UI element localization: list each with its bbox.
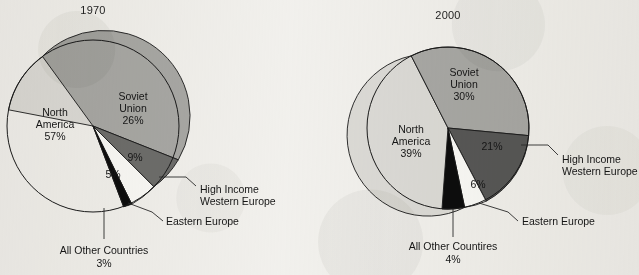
right-label-soviet-union-line2: Union bbox=[450, 78, 478, 90]
right-value-all-other-countries: 4% bbox=[445, 253, 460, 265]
left-callout-high-income-line2: Western Europe bbox=[200, 195, 276, 207]
left-leader-eastern-europe bbox=[128, 203, 163, 221]
right-callout-high-income-line2: Western Europe bbox=[562, 165, 638, 177]
left-leader-high-income-western-europe bbox=[159, 177, 196, 186]
left-label-soviet-union-line1: Soviet bbox=[118, 90, 147, 102]
right-value-high-income-western-europe: 21% bbox=[481, 140, 502, 152]
right-value-north-america: 39% bbox=[400, 147, 421, 159]
right-label-soviet-union-line1: Soviet bbox=[449, 66, 478, 78]
left-label-soviet-union-line2: Union bbox=[119, 102, 147, 114]
right-label-north-america-line2: America bbox=[392, 135, 431, 147]
left-callout-high-income-line1: High Income bbox=[200, 183, 259, 195]
left-value-eastern-europe: 5% bbox=[105, 168, 120, 180]
left-value-high-income-western-europe: 9% bbox=[127, 151, 142, 163]
left-value-soviet-union: 26% bbox=[122, 114, 143, 126]
right-value-eastern-europe: 6% bbox=[470, 178, 485, 190]
left-value-all-other-countries: 3% bbox=[96, 257, 111, 269]
left-value-north-america: 57% bbox=[44, 130, 65, 142]
right-callout-eastern-europe: Eastern Europe bbox=[522, 215, 595, 227]
right-callout-all-other-countries: All Other Countires bbox=[409, 240, 498, 252]
left-label-north-america-line1: North bbox=[42, 106, 68, 118]
right-label-north-america-line1: North bbox=[398, 123, 424, 135]
left-label-north-america-line2: America bbox=[36, 118, 75, 130]
right-value-soviet-union: 30% bbox=[453, 90, 474, 102]
left-pie-chart-1970: 1970 North America 57% Soviet Union 26% … bbox=[7, 4, 276, 269]
two-pie-chart-figure: 1970 North America 57% Soviet Union 26% … bbox=[0, 0, 639, 275]
left-callout-all-other-countries: All Other Countries bbox=[60, 244, 149, 256]
left-chart-title: 1970 bbox=[80, 4, 105, 16]
right-leader-eastern-europe bbox=[479, 203, 518, 221]
figure-canvas: 1970 North America 57% Soviet Union 26% … bbox=[0, 0, 639, 275]
right-chart-title: 2000 bbox=[435, 9, 460, 21]
right-callout-high-income-line1: High Income bbox=[562, 153, 621, 165]
left-callout-eastern-europe: Eastern Europe bbox=[166, 215, 239, 227]
right-pie-chart-2000: 2000 North America 39% Soviet Union 30% … bbox=[347, 9, 638, 265]
